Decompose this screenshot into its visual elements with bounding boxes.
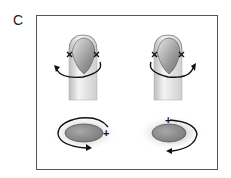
right-disc-figure: + xyxy=(137,114,205,154)
diagram-canvas: + + xyxy=(0,0,231,178)
plus-sign: + xyxy=(103,127,109,139)
left-disc-figure: + xyxy=(50,115,118,151)
plus-sign: + xyxy=(165,114,171,126)
left-tooth-figure xyxy=(54,35,101,100)
right-tooth-figure xyxy=(150,35,196,100)
